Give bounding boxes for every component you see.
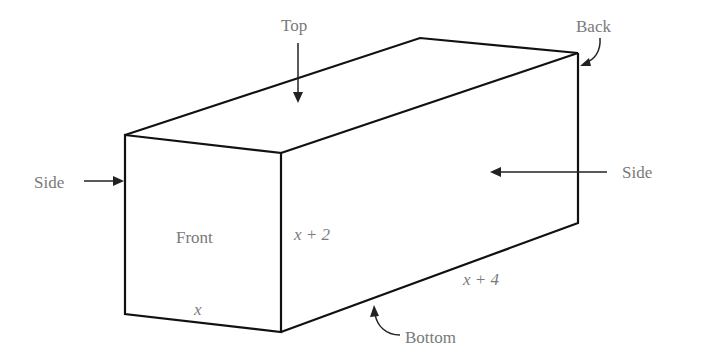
box-diagram: Top Back Side Side Front x + 2 x x + 4 B… bbox=[0, 0, 703, 361]
bottom-arrow-icon bbox=[375, 314, 400, 335]
left-side-arrowhead-icon bbox=[113, 176, 124, 186]
right-side-edges bbox=[281, 53, 578, 332]
left-side-label-group: Side bbox=[34, 173, 124, 192]
top-label-group: Top bbox=[281, 16, 307, 103]
back-arrow-icon bbox=[585, 38, 600, 63]
front-label: Front bbox=[176, 228, 213, 247]
back-label: Back bbox=[576, 17, 611, 36]
length-dimension-label: x + 4 bbox=[462, 270, 500, 289]
top-face-edges bbox=[125, 38, 578, 153]
right-side-label-group: Side bbox=[490, 163, 652, 182]
bottom-label-group: Bottom bbox=[370, 305, 456, 347]
height-dimension-label: x + 2 bbox=[293, 225, 331, 244]
right-side-label: Side bbox=[622, 163, 652, 182]
back-label-group: Back bbox=[576, 17, 611, 66]
bottom-label: Bottom bbox=[405, 328, 456, 347]
left-side-label: Side bbox=[34, 173, 64, 192]
top-label: Top bbox=[281, 16, 307, 35]
box-edges bbox=[125, 38, 578, 332]
back-arrowhead-icon bbox=[580, 58, 591, 66]
top-arrowhead-icon bbox=[293, 92, 303, 103]
right-side-arrowhead-icon bbox=[490, 167, 501, 177]
bottom-arrowhead-icon bbox=[370, 305, 379, 317]
width-dimension-label: x bbox=[193, 300, 202, 319]
